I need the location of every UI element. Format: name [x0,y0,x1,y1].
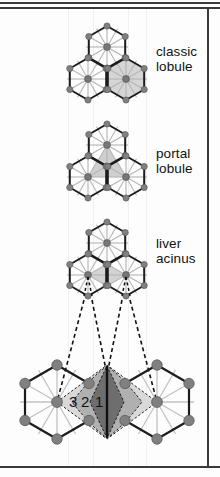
panel-acinus-zones: 3 2 1 [20,360,194,444]
panel-label-line1: liver [156,237,196,252]
panel-label-liver-acinus: liver acinus [156,237,196,266]
portal-triad-node [152,397,163,408]
central-vein-node [123,174,130,181]
panel-label-line2: lobule [156,60,197,75]
central-vein-node [85,76,92,83]
panel-portal-lobule [67,121,148,201]
zone-label-2: 2 [81,393,89,410]
panel-label-portal-lobule: portal lobule [156,147,193,176]
panel-label-line2: acinus [156,252,196,267]
panel-label-line2: lobule [156,162,193,177]
panel-classic-lobule [67,23,148,103]
panel-label-line1: classic [156,45,197,60]
central-vein-node [85,174,92,181]
panel-label-classic-lobule: classic lobule [156,45,197,74]
panel-label-line1: portal [156,147,193,162]
central-vein-node [104,142,111,149]
central-vein-node [104,240,111,247]
liver-lobule-figure: 3 2 1 classic lobule portal lobule liver… [0,0,220,477]
portal-triad-node [52,397,63,408]
zone-label-3: 3 [69,393,77,410]
central-vein-node [104,44,111,51]
central-vein-node [123,76,130,83]
panel-liver-acinus [67,219,148,299]
zone-label-1: 1 [95,393,103,410]
